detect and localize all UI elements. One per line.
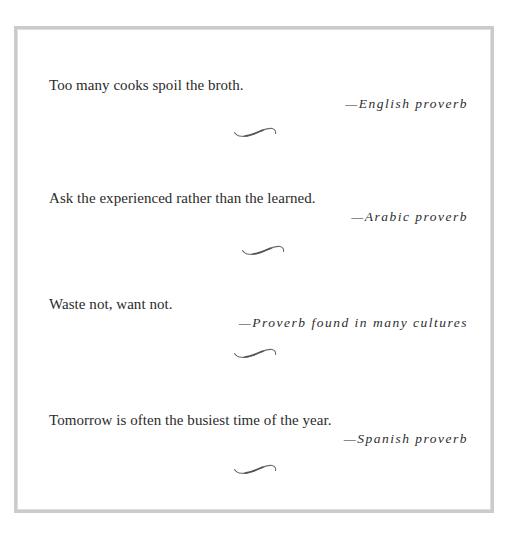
proverb-quote: Ask the experienced rather than the lear… — [49, 190, 316, 206]
proverb-attribution: —English proverb — [345, 96, 468, 112]
proverb-quote: Waste not, want not. — [49, 296, 173, 312]
swash-divider-icon — [241, 244, 285, 258]
swash-divider-icon — [233, 126, 277, 140]
swash-divider-icon — [233, 347, 277, 361]
proverb-quote: Tomorrow is often the busiest time of th… — [49, 412, 332, 428]
proverb-attribution: —Arabic proverb — [351, 209, 468, 225]
proverb-attribution: —Proverb found in many cultures — [239, 315, 468, 331]
swash-divider-icon — [233, 463, 277, 477]
proverb-quote: Too many cooks spoil the broth. — [49, 77, 244, 93]
proverb-attribution: —Spanish proverb — [344, 431, 468, 447]
proverbs-frame: Too many cooks spoil the broth. —English… — [14, 26, 494, 513]
